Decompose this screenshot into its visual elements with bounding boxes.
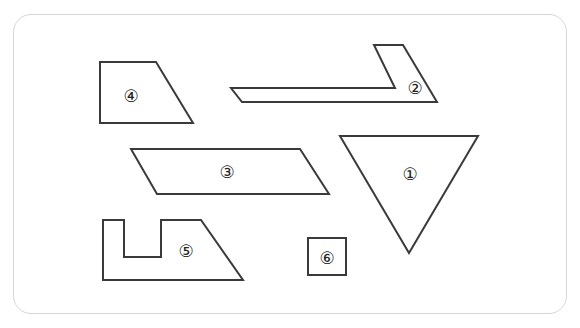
shape-5: ⑤ — [103, 220, 243, 280]
shape-5-notched — [103, 220, 243, 280]
shape-4-label: ④ — [123, 86, 138, 106]
shape-2: ② — [231, 45, 437, 102]
shape-6: ⑥ — [308, 238, 346, 275]
shape-1-triangle — [340, 136, 478, 253]
shape-3-label: ③ — [219, 162, 234, 182]
shape-6-label: ⑥ — [319, 248, 334, 268]
shape-4-trapezoid — [100, 62, 193, 123]
shape-2-label: ② — [407, 78, 422, 98]
shape-3: ③ — [131, 149, 329, 194]
shape-1: ① — [340, 136, 478, 253]
shape-2-hook — [231, 45, 437, 102]
shapes-canvas: ① ② ③ ④ ⑤ ⑥ — [0, 0, 580, 328]
shape-1-label: ① — [402, 164, 417, 184]
shape-5-label: ⑤ — [178, 241, 193, 261]
shape-4: ④ — [100, 62, 193, 123]
